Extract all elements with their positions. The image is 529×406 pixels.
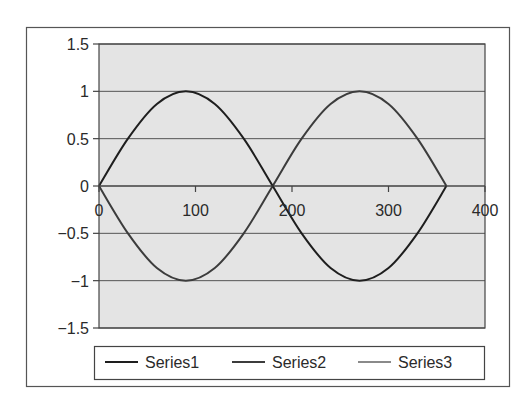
legend: Series1 Series2 Series3 <box>95 347 485 380</box>
y-tick-label: −1 <box>71 273 89 290</box>
y-tick-label: 0 <box>80 178 89 195</box>
legend-label-series2: Series2 <box>272 354 326 371</box>
y-tick-label: −1.5 <box>57 320 89 337</box>
x-tick-label: 300 <box>375 202 402 219</box>
x-tick-label: 200 <box>279 202 306 219</box>
x-tick-label: 400 <box>472 202 499 219</box>
x-tick-label: 100 <box>182 202 209 219</box>
chart: 1.510.50−0.5−1−1.5 0100200300400 Series1… <box>0 0 529 406</box>
y-tick-label: 1 <box>80 83 89 100</box>
legend-label-series1: Series1 <box>145 354 199 371</box>
x-tick-label: 0 <box>95 202 104 219</box>
legend-label-series3: Series3 <box>398 354 452 371</box>
y-tick-label: 1.5 <box>67 36 89 53</box>
y-tick-label: −0.5 <box>57 225 89 242</box>
y-tick-label: 0.5 <box>67 131 89 148</box>
